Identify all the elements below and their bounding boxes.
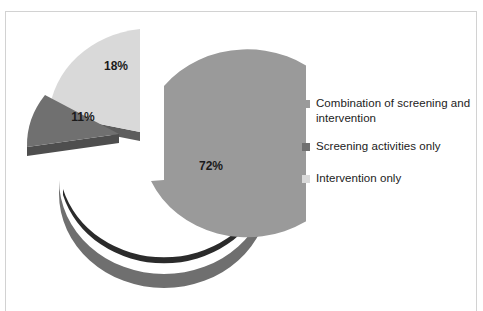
- legend-item-intervention[interactable]: Intervention only: [302, 171, 478, 186]
- legend-label-screening: Screening activities only: [316, 139, 441, 154]
- legend-label-intervention: Intervention only: [316, 171, 401, 186]
- chart-title: [0, 0, 483, 5]
- chart-frame: 18% 11% 72%: [5, 11, 477, 311]
- chart-legend: Combination of screening and interventio…: [302, 96, 478, 199]
- legend-swatch-combination: [302, 100, 310, 108]
- legend-swatch-intervention: [302, 175, 310, 183]
- legend-item-screening[interactable]: Screening activities only: [302, 139, 478, 154]
- pie-chart-plot-area: 18% 11% 72%: [6, 12, 306, 292]
- pie-slice-label-intervention-only: 18%: [104, 59, 128, 73]
- legend-swatch-screening: [302, 143, 310, 151]
- pie-slice-label-combination: 72%: [199, 159, 223, 173]
- legend-label-combination: Combination of screening and interventio…: [316, 96, 478, 126]
- pie-chart-graphic: 18% 11% 72%: [6, 12, 306, 292]
- pie-slice-label-screening-only: 11%: [71, 110, 95, 124]
- pie-slice-combination-face: [151, 49, 306, 237]
- legend-item-combination[interactable]: Combination of screening and interventio…: [302, 96, 478, 126]
